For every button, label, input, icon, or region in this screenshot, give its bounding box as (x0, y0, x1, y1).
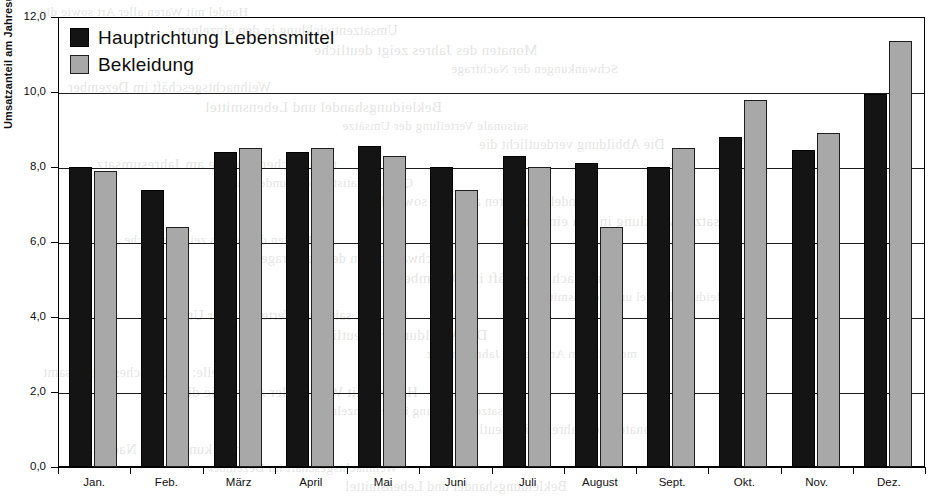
x-axis-ticks (58, 467, 925, 475)
y-tick-mark (51, 467, 58, 468)
bar (430, 167, 453, 467)
x-tick-mark (781, 467, 782, 474)
y-tick-label: 4,0 (4, 310, 46, 322)
y-tick-mark (51, 17, 58, 18)
bar (672, 148, 695, 467)
x-tick-label: Okt. (708, 476, 780, 488)
x-tick-label: März (203, 476, 275, 488)
x-tick-label: April (275, 476, 347, 488)
y-tick-label: 8,0 (4, 160, 46, 172)
x-tick-label: Juni (419, 476, 491, 488)
x-tick-mark (130, 467, 131, 474)
y-tick-label: 10,0 (4, 85, 46, 97)
bar (94, 171, 117, 467)
legend-entry: Hauptrichtung Lebensmittel (70, 24, 400, 51)
bar (358, 146, 381, 467)
bar-group (781, 17, 853, 467)
x-tick-label: August (564, 476, 636, 488)
x-tick-mark (58, 467, 59, 474)
bar-group (708, 17, 780, 467)
y-tick-mark (51, 167, 58, 168)
bar-chart: Umsatzanteil am Jahresumsatz (in %) 0,02… (0, 0, 929, 503)
bar-group (636, 17, 708, 467)
bar-group (492, 17, 564, 467)
bar-group (564, 17, 636, 467)
bar-group (58, 17, 130, 467)
bar (575, 163, 598, 467)
x-tick-mark (925, 467, 926, 474)
legend-label: Hauptrichtung Lebensmittel (98, 28, 335, 47)
y-tick-label: 2,0 (4, 385, 46, 397)
bar (455, 190, 478, 468)
bar-group (275, 17, 347, 467)
bar-group (347, 17, 419, 467)
bar (889, 41, 912, 467)
y-tick-label: 0,0 (4, 460, 46, 472)
x-tick-label: Mai (347, 476, 419, 488)
x-tick-mark (275, 467, 276, 474)
bar-group (419, 17, 491, 467)
bar (647, 167, 670, 467)
bar (817, 133, 840, 467)
y-tick-label: 6,0 (4, 235, 46, 247)
legend-label: Bekleidung (98, 55, 194, 74)
x-tick-label: Nov. (781, 476, 853, 488)
bar (864, 94, 887, 467)
y-tick-mark (51, 317, 58, 318)
x-tick-mark (347, 467, 348, 474)
chart-legend: Hauptrichtung LebensmittelBekleidung (70, 24, 400, 78)
y-tick-mark (51, 242, 58, 243)
legend-entry: Bekleidung (70, 51, 400, 78)
bar (719, 137, 742, 467)
dark-square-swatch (70, 28, 89, 47)
x-tick-label: Dez. (853, 476, 925, 488)
bar (311, 148, 334, 467)
bar (744, 100, 767, 468)
bar (528, 167, 551, 467)
gray-square-swatch (70, 55, 89, 74)
bar-group (853, 17, 925, 467)
bar (214, 152, 237, 467)
x-tick-label: Juli (492, 476, 564, 488)
bar (383, 156, 406, 467)
x-axis-labels: Jan.Feb.MärzAprilMaiJuniJuliAugustSept.O… (58, 476, 925, 498)
bar (286, 152, 309, 467)
x-tick-mark (636, 467, 637, 474)
bar-group (203, 17, 275, 467)
y-tick-label: 12,0 (4, 10, 46, 22)
bar-group (130, 17, 202, 467)
x-tick-mark (564, 467, 565, 474)
x-tick-mark (419, 467, 420, 474)
x-tick-mark (203, 467, 204, 474)
bar (69, 167, 92, 467)
bar (503, 156, 526, 467)
y-tick-mark (51, 92, 58, 93)
y-tick-mark (51, 392, 58, 393)
bar (600, 227, 623, 467)
x-tick-mark (708, 467, 709, 474)
x-tick-label: Jan. (58, 476, 130, 488)
bar (239, 148, 262, 467)
bars-layer (58, 17, 925, 467)
y-axis-ticks: 0,02,04,06,08,010,012,0 (0, 0, 58, 503)
x-tick-mark (492, 467, 493, 474)
bar (792, 150, 815, 467)
x-tick-mark (853, 467, 854, 474)
x-tick-label: Feb. (130, 476, 202, 488)
x-tick-label: Sept. (636, 476, 708, 488)
bar (166, 227, 189, 467)
bar (141, 190, 164, 468)
